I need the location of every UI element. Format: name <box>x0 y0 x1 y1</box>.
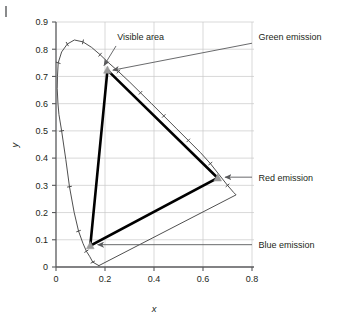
x-tick-label: 0.8 <box>246 274 259 284</box>
y-tick-label: 0.9 <box>35 17 48 27</box>
x-tick-label: 0.6 <box>197 274 210 284</box>
y-tick-label: 0.5 <box>35 126 48 136</box>
y-tick-label: 0 <box>43 262 48 272</box>
annotation-label-red-emission: Red emission <box>258 173 313 183</box>
y-tick-label: 0.3 <box>35 181 48 191</box>
annotation-labels: Visible areaGreen emissionRed emissionBl… <box>117 32 321 250</box>
y-axis-tick-labels: 00.10.20.30.40.50.60.70.80.9 <box>35 17 48 272</box>
x-axis-title: x <box>151 303 158 314</box>
y-tick-label: 0.2 <box>35 208 48 218</box>
y-tick-label: 0.4 <box>35 153 48 163</box>
y-tick-label: 0.8 <box>35 45 48 55</box>
annotation-label-visible-area: Visible area <box>117 32 164 42</box>
chromaticity-diagram-figure: 00.20.40.60.8 00.10.20.30.40.50.60.70.80… <box>0 0 344 317</box>
x-tick-label: 0 <box>53 274 58 284</box>
x-tick-label: 0.4 <box>148 274 161 284</box>
y-axis-title: y <box>9 141 20 148</box>
chart-axes <box>56 22 254 267</box>
x-tick-label: 0.2 <box>99 274 112 284</box>
annotation-label-blue-emission: Blue emission <box>258 240 314 250</box>
x-axis-tick-labels: 00.20.40.60.8 <box>53 274 258 284</box>
y-tick-label: 0.1 <box>35 235 48 245</box>
y-tick-label: 0.7 <box>35 72 48 82</box>
annotation-label-green-emission: Green emission <box>258 32 321 42</box>
spectral-locus-path <box>57 40 236 266</box>
locus-tick <box>67 186 72 187</box>
chart-gridlines <box>56 22 254 267</box>
y-tick-label: 0.6 <box>35 99 48 109</box>
locus-tick <box>82 40 83 45</box>
annotation-arrow-green-emission <box>113 43 252 70</box>
spectral-locus-curve <box>57 40 236 266</box>
cie-chromaticity-chart: 00.20.40.60.8 00.10.20.30.40.50.60.70.80… <box>0 0 344 317</box>
